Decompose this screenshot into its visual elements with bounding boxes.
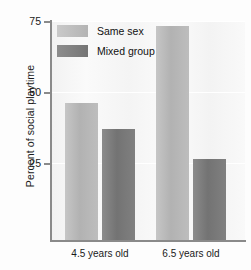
x-axis-line [50, 240, 246, 242]
y-tick-label-50: 50 [1, 86, 41, 98]
bar-mixed-group-6-5-years-old [193, 159, 226, 240]
legend: Same sex Mixed group [57, 23, 155, 63]
legend-item-same-sex: Same sex [57, 23, 155, 38]
legend-swatch-same-sex [57, 25, 88, 37]
x-axis-category-label-2: 6.5 years old [162, 248, 219, 259]
y-axis-title: Percent of social playtime [24, 26, 36, 226]
y-tick-label-25: 25 [1, 157, 41, 169]
gridline-50 [51, 92, 245, 93]
bar-same-sex-6-5-years-old [156, 26, 189, 240]
x-axis-category-label-1: 4.5 years old [71, 248, 128, 259]
bar-same-sex-4-5-years-old [65, 103, 98, 240]
y-axis-line [50, 20, 52, 241]
bar-mixed-group-4-5-years-old [102, 129, 135, 240]
y-tick-mark-25 [44, 163, 51, 165]
legend-item-mixed-group: Mixed group [57, 43, 155, 58]
y-tick-mark-50 [44, 92, 51, 94]
gridline-75 [51, 21, 245, 22]
legend-label-same-sex: Same sex [97, 25, 144, 37]
y-tick-mark-75 [44, 21, 51, 23]
legend-swatch-mixed-group [57, 45, 88, 57]
bar-chart-figure: Percent of social playtime 75 50 25 Same… [0, 0, 251, 270]
y-tick-label-75: 75 [1, 15, 41, 27]
legend-label-mixed-group: Mixed group [97, 45, 155, 57]
